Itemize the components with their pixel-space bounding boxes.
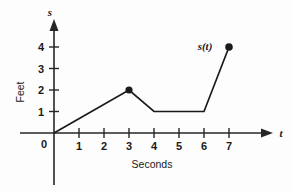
x-tick-label-6: 6 xyxy=(201,140,207,152)
x-tick-labels: 0 1 2 3 4 5 6 7 xyxy=(41,138,232,152)
chart-canvas: s 1 2 3 4 Feet t xyxy=(0,0,292,193)
position-time-graph-figure: s 1 2 3 4 Feet t xyxy=(0,0,292,193)
x-axis-symbol-label: t xyxy=(279,127,283,139)
x-tick-label-0: 0 xyxy=(41,138,47,150)
y-tick-label-3: 3 xyxy=(38,63,44,75)
y-tick-label-4: 4 xyxy=(38,41,45,53)
curve-label-st: s(t) xyxy=(197,40,213,53)
data-point-marker-3-2 xyxy=(125,86,132,93)
y-tick-labels: 1 2 3 4 xyxy=(38,41,45,118)
y-axis-group: s xyxy=(47,6,59,185)
x-tick-label-2: 2 xyxy=(101,140,107,152)
x-axis-arrowhead-icon xyxy=(261,129,273,138)
data-point-marker-7-4 xyxy=(225,43,233,51)
x-axis-title: Seconds xyxy=(132,158,173,170)
position-function-polyline xyxy=(54,47,229,133)
y-axis-symbol-label: s xyxy=(47,6,52,18)
y-tick-label-2: 2 xyxy=(38,84,44,96)
x-tick-label-7: 7 xyxy=(226,140,232,152)
x-tick-label-4: 4 xyxy=(151,140,158,152)
x-tick-label-1: 1 xyxy=(76,140,82,152)
x-tick-label-5: 5 xyxy=(176,140,182,152)
y-tick-label-1: 1 xyxy=(38,106,44,118)
x-tick-label-3: 3 xyxy=(126,140,132,152)
y-axis-title: Feet xyxy=(14,81,26,102)
y-axis-arrowhead-icon xyxy=(50,19,59,31)
x-axis-group: t xyxy=(20,127,283,139)
